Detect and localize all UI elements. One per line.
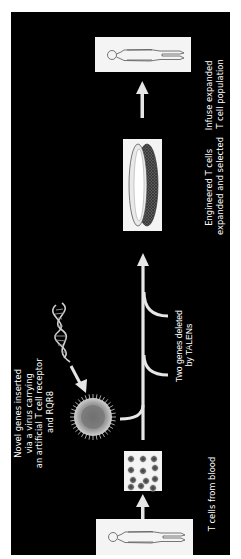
infuse-label: Infuse expanded T cell population xyxy=(204,58,225,130)
cell xyxy=(127,483,135,491)
culture-dish-box xyxy=(123,139,162,231)
cell xyxy=(139,455,147,463)
diagram-canvas: Infuse expanded T cell population Engine… xyxy=(0,0,241,559)
diagram-background xyxy=(11,12,230,555)
blood-label: T cells from blood xyxy=(207,457,217,533)
culture-label: Engineered T cells expanded and selected xyxy=(204,137,225,235)
culture-dish-icon xyxy=(129,144,158,226)
cell xyxy=(150,455,158,463)
cell-sample-box xyxy=(124,451,162,492)
cell xyxy=(127,466,135,474)
infuse-person-box xyxy=(95,37,191,72)
cell xyxy=(151,475,159,483)
blood-person-box xyxy=(96,519,193,555)
cell xyxy=(151,464,159,472)
cell xyxy=(137,482,145,490)
cell xyxy=(149,484,157,492)
cell xyxy=(127,455,135,463)
cell xyxy=(139,467,147,475)
